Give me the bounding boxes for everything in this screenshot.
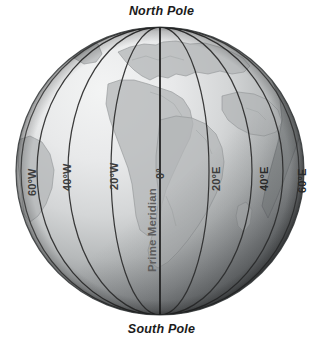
prime-meridian-label: Prime Meridian	[147, 188, 159, 272]
meridian-label-20e: 20°E	[211, 167, 222, 191]
meridian-label-60e: 60°E	[297, 169, 308, 193]
meridian-label-0: 0°	[155, 168, 166, 179]
meridian-label-20w: 20°W	[109, 163, 120, 190]
meridian-label-40e: 40°E	[259, 167, 270, 191]
south-pole-caption: South Pole	[0, 322, 323, 336]
meridian-label-40w: 40°W	[62, 164, 73, 191]
globe-figure: 60°W 40°W 20°W 0° 20°E 40°E 60°E Prime M…	[0, 0, 323, 344]
meridian-label-60w: 60°W	[27, 169, 38, 196]
